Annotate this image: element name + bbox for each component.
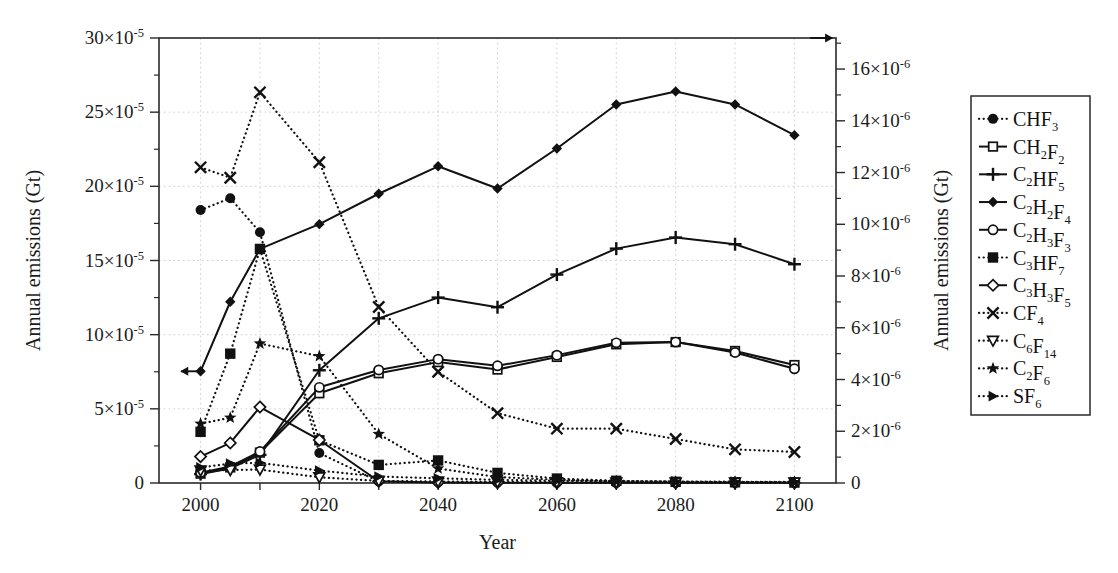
marker-filled-square (255, 244, 265, 254)
marker-filled-circle (314, 448, 324, 458)
axis-tick-label: 25×10-5 (85, 100, 144, 122)
marker-open-circle (255, 447, 264, 456)
axis-tick-label: 0 (135, 472, 145, 493)
marker-open-circle (315, 383, 324, 392)
marker-open-circle (730, 348, 739, 357)
marker-cross (433, 366, 444, 377)
marker-open-circle (374, 365, 383, 374)
axis-tick-label: 4×10-6 (851, 368, 901, 390)
x-tick-label: 2000 (182, 494, 220, 515)
marker-cross (670, 433, 681, 444)
marker-filled-circle (225, 193, 235, 203)
marker-filled-diamond (670, 86, 680, 96)
marker-filled-diamond (374, 189, 384, 199)
marker-filled-square (225, 348, 235, 358)
x-tick-label: 2100 (775, 494, 813, 515)
axis-tick-label: 5×10-5 (94, 397, 144, 419)
left-axis-title: Annual emissions (Gt) (22, 170, 45, 351)
axis-tick-label: 8×10-6 (851, 264, 901, 286)
marker-filled-star (254, 337, 267, 349)
x-axis-title: Year (479, 531, 516, 553)
axis-tick-label: 10×10-6 (851, 212, 910, 234)
marker-filled-diamond (225, 297, 235, 307)
marker-open-diamond (195, 451, 206, 462)
marker-filled-star (224, 411, 237, 423)
marker-plus (669, 231, 682, 244)
axis-tick-label: 12×10-6 (851, 161, 910, 183)
marker-filled-square (988, 252, 998, 262)
marker-plus (432, 291, 445, 304)
marker-filled-circle (255, 227, 265, 237)
axis-tick-label: 0 (851, 472, 861, 493)
series-CF4 (195, 87, 800, 458)
marker-filled-diamond (730, 99, 740, 109)
right-axis-title: Annual emissions (Gt) (930, 170, 953, 351)
x-tick-label: 2080 (657, 494, 695, 515)
marker-open-square (989, 142, 998, 151)
marker-open-circle (671, 337, 680, 346)
x-tick-label: 2040 (419, 494, 457, 515)
marker-open-circle (612, 338, 621, 347)
marker-filled-square (374, 460, 384, 470)
marker-open-circle (552, 351, 561, 360)
marker-filled-circle (988, 114, 998, 124)
marker-plus (729, 238, 742, 251)
marker-filled-diamond (314, 219, 324, 229)
right-axis-arrow (810, 34, 833, 43)
x-tick-label: 2060 (538, 494, 576, 515)
axis-tick-label: 2×10-6 (851, 419, 901, 441)
axis-labels: 20002020204020602080210005×10-510×10-515… (22, 26, 953, 553)
x-tick-label: 2020 (300, 494, 338, 515)
marker-plus (491, 301, 504, 314)
axis-tick-label: 14×10-6 (851, 109, 910, 131)
figure-root: 20002020204020602080210005×10-510×10-515… (0, 0, 1118, 573)
emissions-line-chart: 20002020204020602080210005×10-510×10-515… (0, 0, 1118, 573)
legend[interactable]: CHF3CH2F2C2HF5C2H2F4C2H3F3C3HF7C3H3F5CF4… (971, 96, 1090, 415)
marker-filled-diamond (433, 161, 443, 171)
axis-tick-label: 30×10-5 (85, 26, 144, 48)
annotation-layer (180, 34, 833, 376)
axis-tick-label: 10×10-5 (85, 323, 144, 345)
axis-tick-label: 20×10-5 (85, 174, 144, 196)
marker-plus (550, 268, 563, 281)
marker-open-circle (493, 361, 502, 370)
marker-open-circle (434, 355, 443, 364)
marker-plus (788, 258, 801, 271)
marker-filled-diamond (789, 130, 799, 140)
marker-cross (225, 172, 236, 183)
axis-tick-label: 16×10-6 (851, 57, 910, 79)
axis-tick-label: 6×10-6 (851, 316, 901, 338)
marker-open-circle (790, 364, 799, 373)
marker-plus (610, 242, 623, 255)
marker-open-circle (988, 225, 997, 234)
axis-tick-label: 15×10-5 (85, 249, 144, 271)
marker-filled-circle (196, 205, 206, 215)
